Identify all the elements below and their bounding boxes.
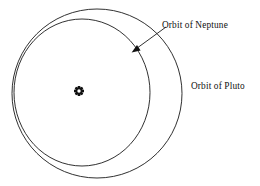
neptune-orbit-label: Orbit of Neptune [162,20,228,31]
orbit-diagram: Orbit of Neptune Orbit of Pluto [0,0,260,186]
sun-icon [74,86,84,96]
pluto-orbit-label: Orbit of Pluto [191,81,245,92]
